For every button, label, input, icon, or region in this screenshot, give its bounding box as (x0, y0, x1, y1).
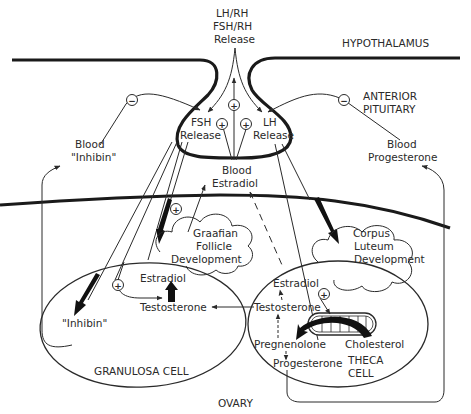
lh-label: LH (263, 116, 277, 128)
graafian-label-3: Development (171, 253, 242, 265)
anterior-pituitary-label-1: ANTERIOR (363, 90, 417, 102)
minus-text: − (128, 96, 136, 106)
graafian-label-2: Follicle (196, 240, 232, 252)
fsh-label: FSH (191, 116, 211, 128)
plus-text: + (320, 290, 328, 300)
blood-estradiol-label-1: Blood (222, 164, 252, 176)
plus-text: + (172, 205, 180, 215)
theca-estradiol: Estradiol (273, 277, 319, 289)
blood-inhibin-label-2: "Inhibin" (71, 151, 116, 163)
plus-text: + (230, 101, 238, 111)
hypothalamus-label: HYPOTHALAMUS (342, 37, 429, 49)
theca-cell-label-1: THECA (347, 354, 384, 366)
granulosa-cell-label: GRANULOSA CELL (94, 365, 189, 377)
ovary-label: OVARY (218, 397, 253, 409)
blood-estradiol-label-2: Estradiol (212, 177, 258, 189)
theca-progesterone: Progesterone (273, 357, 342, 369)
dashed-theca-estradiol-to-blood (250, 192, 282, 265)
plus-text: + (218, 120, 226, 130)
corpus-label-1: Corpus (353, 227, 390, 239)
lh-release-label: Release (253, 129, 294, 141)
thick-arrow-testosterone-to-estradiol (165, 281, 178, 302)
fsh-line-3 (148, 142, 182, 260)
lh-line-2 (282, 144, 310, 200)
granulosa-estradiol: Estradiol (140, 272, 186, 284)
fshrh-label: FSH/RH (213, 20, 252, 32)
minus-text: − (340, 96, 348, 106)
plus-text: + (242, 120, 250, 130)
thick-arrow-lh-corpus (314, 197, 339, 244)
anterior-pituitary-label-2: PITUITARY (363, 103, 416, 115)
ovary-boundary (0, 195, 450, 228)
corpus-label-2: Luteum (354, 240, 394, 252)
theca-pregnenolone: Pregnenolone (254, 338, 326, 350)
graafian-label-1: Graafian (193, 227, 238, 239)
release-label: Release (214, 33, 255, 45)
theca-cell-label-2: CELL (348, 367, 374, 379)
plus-text: + (114, 281, 122, 291)
granulosa-testosterone: Testosterone (139, 301, 207, 313)
lhrh-label: LH/RH (216, 7, 248, 19)
blood-inhibin-label-1: Blood (75, 138, 105, 150)
arrow-testosterone-to-estradiol-theca (280, 290, 282, 300)
arrow-granulosa-estradiol-to-blood (188, 185, 205, 232)
hpo-axis-diagram: HYPOTHALAMUS ANTERIOR PITUITARY OVARY LH… (0, 0, 471, 414)
blood-progesterone-label-2: Progesterone (368, 151, 437, 163)
fsh-release-label: Release (180, 129, 221, 141)
arrow-lh-to-mitochondrion (320, 298, 330, 314)
theca-cholesterol: Cholesterol (345, 338, 404, 350)
granulosa-inhibin: "Inhibin" (62, 317, 107, 329)
theca-testosterone: Testosterone (253, 301, 321, 313)
blood-progesterone-label-1: Blood (387, 138, 417, 150)
